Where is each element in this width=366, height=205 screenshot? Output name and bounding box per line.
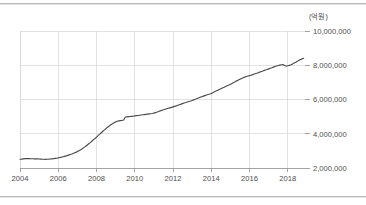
y-tick-label: 8,000,000	[313, 61, 347, 70]
series-line-total	[20, 58, 304, 159]
chart-figure: 200420062008201020122014201620182,000,00…	[0, 0, 366, 205]
x-tick-label: 2018	[279, 174, 296, 183]
y-tick-label: 4,000,000	[313, 130, 347, 139]
grid-layer	[20, 31, 305, 168]
y-tick-label: 10,000,000	[313, 27, 351, 36]
y-tick-label: 2,000,000	[313, 164, 347, 173]
x-tick-label: 2012	[165, 174, 182, 183]
y-tick-label: 6,000,000	[313, 95, 347, 104]
x-tick-label: 2016	[241, 174, 258, 183]
x-tick-label: 2008	[88, 174, 105, 183]
series-layer	[20, 58, 304, 159]
axis-layer	[20, 31, 310, 172]
axis-label-layer: 200420062008201020122014201620182,000,00…	[12, 27, 351, 183]
line-chart: 200420062008201020122014201620182,000,00…	[0, 0, 366, 205]
x-tick-label: 2010	[126, 174, 143, 183]
x-tick-label: 2006	[50, 174, 67, 183]
unit-label: (억원)	[309, 12, 328, 21]
x-tick-label: 2004	[12, 174, 29, 183]
x-tick-label: 2014	[203, 174, 220, 183]
